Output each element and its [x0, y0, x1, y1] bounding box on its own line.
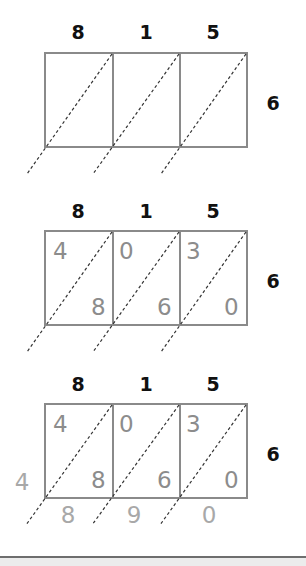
cell-1-tens: 4	[53, 239, 68, 263]
right-label-multiplier: 6	[258, 271, 288, 291]
step-1-empty-lattice: 8 1 5 6	[0, 0, 306, 185]
cell-1-ones: 8	[91, 295, 106, 319]
step-3-diagonal-sums: 8 1 5 4 8 0 6 3 0 6 4 8 9 0	[0, 370, 306, 556]
right-label-multiplier: 6	[258, 444, 288, 464]
cell-3-tens: 3	[186, 239, 201, 263]
right-label-multiplier: 6	[258, 93, 288, 113]
cell-3-ones: 0	[224, 295, 239, 319]
bottom-sum-digit-1: 8	[56, 503, 80, 527]
bottom-sum-digit-3: 0	[197, 503, 221, 527]
cell-2-ones: 6	[157, 295, 172, 319]
bottom-strip	[0, 558, 306, 566]
cell-3-tens: 3	[186, 412, 201, 436]
cell-2-tens: 0	[119, 412, 134, 436]
bottom-sum-digit-2: 9	[122, 503, 146, 527]
cell-3-ones: 0	[224, 468, 239, 492]
cell-1-ones: 8	[91, 468, 106, 492]
step-2-filled-products: 8 1 5 4 8 0 6 3 0 6	[0, 185, 306, 370]
cell-2-ones: 6	[157, 468, 172, 492]
left-sum-digit: 4	[10, 470, 34, 494]
cell-2-tens: 0	[119, 239, 134, 263]
lattice-multiplication-diagram: 8 1 5 6 8 1 5	[0, 0, 306, 566]
cell-1-tens: 4	[53, 412, 68, 436]
